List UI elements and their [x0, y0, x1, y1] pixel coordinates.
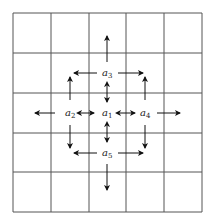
label-a3: a3: [102, 67, 112, 80]
cell-labels: a1a2a3a4a5: [65, 67, 151, 160]
label-a5: a5: [102, 147, 112, 160]
label-a2: a2: [65, 107, 75, 120]
label-a1: a1: [102, 107, 112, 120]
label-a4: a4: [140, 107, 151, 120]
grid-diagram: a1a2a3a4a5: [0, 0, 208, 220]
